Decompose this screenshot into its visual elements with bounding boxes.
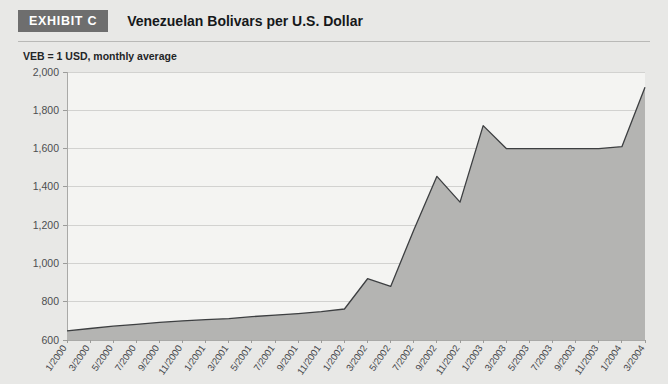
x-axis-tick-label: 1/2003: [459, 343, 485, 373]
y-axis-tick-label: 1,600: [33, 142, 59, 154]
x-axis-tick-label: 3/2000: [66, 343, 92, 373]
x-axis-tick-label: 7/2002: [390, 343, 416, 373]
x-axis-tick-label: 5/2000: [89, 343, 115, 373]
x-axis-tick-label: 7/2001: [251, 343, 277, 373]
exchange-rate-area-chart: 2,0001,8001,6001,4001,2001,0008006001/20…: [0, 0, 668, 384]
x-axis-tick-label: 5/2002: [367, 343, 393, 373]
x-axis-tick-label: 1/2002: [320, 343, 346, 373]
y-axis-tick-label: 1,800: [33, 104, 59, 116]
y-axis-tick-label: 1,000: [33, 257, 59, 269]
y-axis-tick-label: 800: [41, 295, 59, 307]
x-axis-tick-label: 11/2002: [433, 343, 461, 377]
y-axis-tick-label: 2,000: [33, 66, 59, 78]
x-axis-tick-label: 3/2002: [344, 343, 370, 373]
y-axis-tick-label: 1,200: [33, 219, 59, 231]
chart-svg: 2,0001,8001,6001,4001,2001,0008006001/20…: [0, 0, 668, 384]
x-axis-tick-label: 3/2003: [482, 343, 508, 373]
x-axis-tick-label: 5/2001: [228, 343, 254, 373]
x-axis-tick-label: 7/2003: [528, 343, 554, 373]
y-axis-tick-label: 600: [41, 334, 59, 346]
x-axis-tick-label: 7/2000: [112, 343, 138, 373]
x-axis-tick-label: 3/2004: [621, 343, 647, 373]
x-axis-tick-label: 1/2004: [598, 343, 624, 373]
x-axis-tick-label: 1/2001: [182, 343, 208, 373]
x-axis-tick-label: 11/2003: [572, 343, 600, 377]
x-axis-tick-label: 11/2000: [156, 343, 184, 377]
y-axis-tick-label: 1,400: [33, 180, 59, 192]
x-axis-tick-label: 3/2001: [205, 343, 231, 373]
x-axis-tick-label: 1/2000: [43, 343, 69, 373]
x-axis-tick-label: 11/2001: [295, 343, 323, 377]
x-axis-tick-label: 5/2003: [505, 343, 531, 373]
